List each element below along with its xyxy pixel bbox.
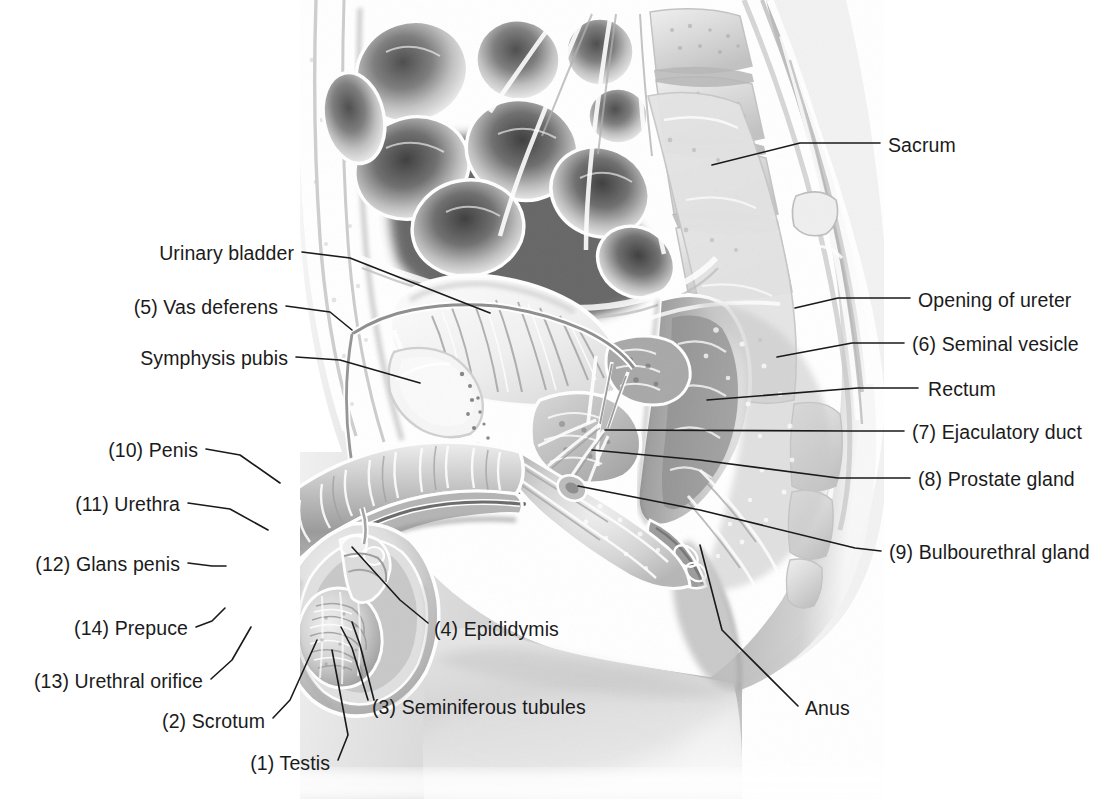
label-layer: SacrumOpening of ureter(6) Seminal vesic… (0, 0, 1103, 799)
label-testis: (1) Testis (250, 754, 330, 774)
label-seminal-vesicle: (6) Seminal vesicle (912, 335, 1079, 355)
label-opening-of-ureter: Opening of ureter (918, 291, 1071, 311)
label-rectum: Rectum (928, 380, 996, 400)
label-penis: (10) Penis (108, 441, 198, 461)
label-urethra: (11) Urethra (75, 495, 180, 515)
label-ejaculatory-duct: (7) Ejaculatory duct (912, 423, 1082, 443)
anatomy-figure: SacrumOpening of ureter(6) Seminal vesic… (0, 0, 1103, 799)
label-seminiferous-tubules: (3) Seminiferous tubules (372, 698, 586, 718)
label-symphysis-pubis: Symphysis pubis (140, 349, 288, 369)
label-prepuce: (14) Prepuce (74, 619, 188, 639)
label-urethral-orifice: (13) Urethral orifice (34, 672, 203, 692)
label-vas-deferens: (5) Vas deferens (134, 298, 278, 318)
label-prostate-gland: (8) Prostate gland (918, 470, 1075, 490)
label-bulbourethral-gland: (9) Bulbourethral gland (889, 543, 1090, 563)
label-anus: Anus (805, 699, 850, 719)
label-scrotum: (2) Scrotum (162, 712, 265, 732)
label-epididymis: (4) Epididymis (434, 620, 559, 640)
label-glans-penis: (12) Glans penis (35, 555, 180, 575)
label-urinary-bladder: Urinary bladder (159, 244, 294, 264)
label-sacrum: Sacrum (888, 136, 956, 156)
